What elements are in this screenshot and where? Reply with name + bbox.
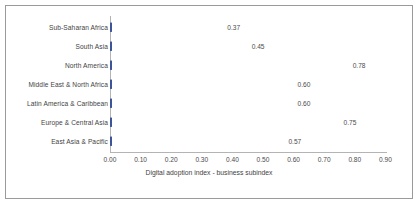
x-tick-label: 0.90 (370, 156, 400, 163)
category-label: Sub-Saharan Africa (6, 24, 108, 31)
category-label: North America (6, 62, 108, 69)
x-tick-label: 0.30 (187, 156, 217, 163)
bar-wrapper (110, 80, 294, 89)
bar-row: Middle East & North Africa0.60 (6, 75, 412, 93)
x-tick-label: 0.50 (248, 156, 278, 163)
bar-value-label: 0.60 (298, 81, 311, 88)
bar-row: East Asia & Pacific0.57 (6, 132, 412, 150)
bar-wrapper (110, 61, 349, 70)
bar-value-label: 0.60 (298, 100, 311, 107)
x-axis-title: Digital adoption index - business subind… (6, 169, 412, 176)
bar-value-label: 0.45 (252, 43, 265, 50)
bar-row: South Asia0.45 (6, 37, 412, 55)
bar-value-label: 0.37 (227, 24, 240, 31)
category-label: East Asia & Pacific (6, 138, 108, 145)
x-tick-label: 0.60 (279, 156, 309, 163)
plot-area: Sub-Saharan Africa0.37South Asia0.45Nort… (6, 6, 412, 198)
bar (110, 118, 112, 127)
category-label: Middle East & North Africa (6, 81, 108, 88)
bar (110, 42, 112, 51)
bar-wrapper (110, 118, 340, 127)
category-label: Europe & Central Asia (6, 119, 108, 126)
x-tick-label: 0.20 (156, 156, 186, 163)
bar-row: Europe & Central Asia0.75 (6, 113, 412, 131)
bar (110, 23, 112, 32)
chart-figure: Sub-Saharan Africa0.37South Asia0.45Nort… (5, 5, 413, 199)
bar-row: Latin America & Caribbean0.60 (6, 94, 412, 112)
x-tick-label: 0.00 (95, 156, 125, 163)
x-tick-label: 0.70 (309, 156, 339, 163)
bar-wrapper (110, 23, 223, 32)
category-label: South Asia (6, 43, 108, 50)
x-axis-line (110, 152, 387, 153)
category-label: Latin America & Caribbean (6, 100, 108, 107)
bar (110, 137, 112, 146)
bar-wrapper (110, 137, 284, 146)
bar-row: Sub-Saharan Africa0.37 (6, 18, 412, 36)
bar (110, 61, 112, 70)
bar-value-label: 0.57 (288, 138, 301, 145)
bar-value-label: 0.78 (353, 62, 366, 69)
bar-value-label: 0.75 (344, 119, 357, 126)
x-tick-label: 0.10 (126, 156, 156, 163)
bar-wrapper (110, 99, 294, 108)
bar-wrapper (110, 42, 248, 51)
bar (110, 80, 112, 89)
x-tick-label: 0.80 (340, 156, 370, 163)
bar-row: North America0.78 (6, 56, 412, 74)
x-tick-label: 0.40 (217, 156, 247, 163)
bar (110, 99, 112, 108)
